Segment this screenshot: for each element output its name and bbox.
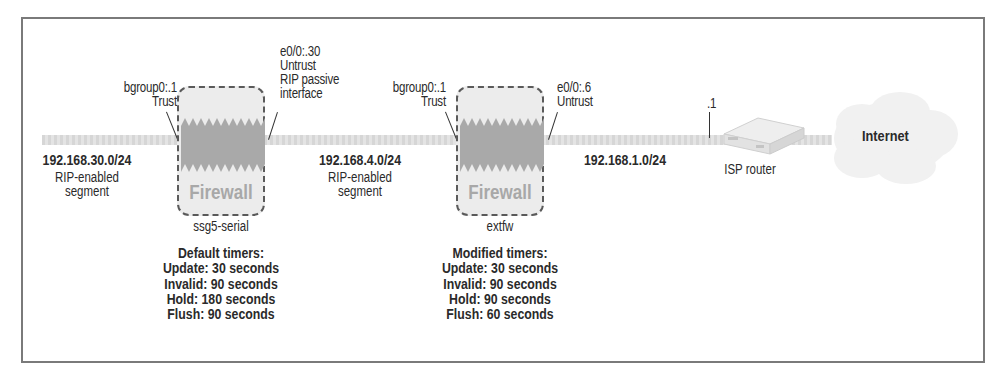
- fw1-right-interface-label: e0/0:.30 Untrust RIP passive interface: [280, 44, 339, 100]
- router-icon[interactable]: [718, 112, 806, 158]
- segment-1-label: 192.168.30.0/24 RIP-enabled segment: [32, 152, 142, 198]
- fw2-timers-title: Modified timers:: [434, 245, 565, 260]
- fw2-timers: Modified timers: Update: 30 seconds Inva…: [434, 245, 565, 321]
- firewall-extfw[interactable]: Firewall: [456, 86, 544, 216]
- fw1-timers-title: Default timers:: [155, 245, 286, 260]
- segment-3-network: 192.168.1.0/24: [576, 152, 674, 167]
- segment-2-label: 192.168.4.0/24 RIP-enabled segment: [300, 152, 420, 198]
- fw1-timer-update: Update: 30 seconds: [155, 260, 286, 275]
- fw2-timer-hold: Hold: 90 seconds: [434, 291, 565, 306]
- segment-1-network: 192.168.30.0/24: [42, 152, 132, 167]
- fw1-timer-invalid: Invalid: 90 seconds: [155, 276, 286, 291]
- fw1-name: ssg5-serial: [180, 219, 262, 233]
- firewall-flame-icon: [460, 116, 544, 174]
- fw1-timer-hold: Hold: 180 seconds: [155, 291, 286, 306]
- router-interface-label: .1: [707, 96, 716, 110]
- firewall-ssg5-serial[interactable]: Firewall: [177, 86, 265, 216]
- fw2-timer-flush: Flush: 60 seconds: [434, 306, 565, 321]
- fw1-timer-flush: Flush: 90 seconds: [155, 306, 286, 321]
- fw2-timer-update: Update: 30 seconds: [434, 260, 565, 275]
- firewall-flame-icon: [181, 116, 265, 174]
- fw2-name: extfw: [459, 219, 541, 233]
- fw2-right-interface-label: e0/0:.6 Untrust: [557, 80, 593, 108]
- network-segment-line: [42, 135, 832, 145]
- fw2-timer-invalid: Invalid: 90 seconds: [434, 276, 565, 291]
- segment-3-label: 192.168.1.0/24: [565, 152, 685, 167]
- router-leader-line: [709, 112, 710, 138]
- fw1-timers: Default timers: Update: 30 seconds Inval…: [155, 245, 286, 321]
- firewall-icon-label: Firewall: [185, 181, 256, 204]
- internet-label: Internet: [862, 128, 909, 143]
- segment-2-network: 192.168.4.0/24: [311, 152, 409, 167]
- fw2-left-interface-label: bgroup0:.1 Trust: [393, 80, 446, 108]
- firewall-icon-label: Firewall: [464, 181, 535, 204]
- router-label: ISP router: [709, 162, 791, 176]
- fw1-left-interface-label: bgroup0:.1 Trust: [124, 80, 177, 108]
